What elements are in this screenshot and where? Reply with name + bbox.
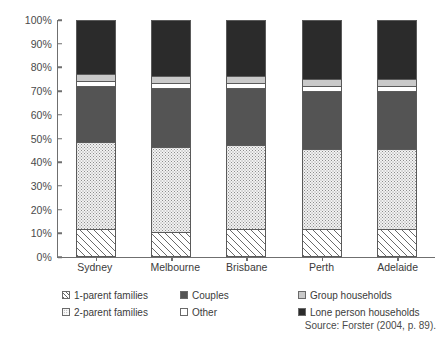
legend-item[interactable]: 2-parent families xyxy=(62,305,180,319)
bar-segment[interactable] xyxy=(77,21,115,75)
bar-segment[interactable] xyxy=(77,143,115,230)
bar-segment[interactable] xyxy=(303,80,341,87)
legend-item-label: Other xyxy=(192,307,217,318)
bar-group xyxy=(377,20,417,257)
stacked-bar[interactable] xyxy=(377,20,417,257)
x-axis-label-adelaide: Adelaide xyxy=(377,261,417,273)
legend-swatch-icon xyxy=(180,291,188,299)
stacked-bar[interactable] xyxy=(151,20,191,257)
legend-item-label: Couples xyxy=(192,290,229,301)
bar-segment[interactable] xyxy=(152,89,190,148)
bar-segment[interactable] xyxy=(378,92,416,151)
legend-item-label: Lone person households xyxy=(310,307,420,318)
plot-area: 0%10%20%30%40%50%60%70%80%90%100% xyxy=(57,20,435,258)
y-axis-tick: 40% xyxy=(31,156,58,168)
bar-group xyxy=(76,20,116,257)
bar-segment[interactable] xyxy=(152,77,190,84)
bar-segment[interactable] xyxy=(378,80,416,87)
bar-segment[interactable] xyxy=(378,21,416,80)
bar-segment[interactable] xyxy=(378,230,416,256)
bar-segment[interactable] xyxy=(303,230,341,256)
bar-segment[interactable] xyxy=(227,77,265,84)
x-axis-labels: SydneyMelbourneBrisbanePerthAdelaide xyxy=(57,261,435,277)
y-axis-tick: 80% xyxy=(31,61,58,73)
bar-segment[interactable] xyxy=(152,21,190,77)
legend-item[interactable]: Lone person households xyxy=(298,305,420,319)
bar-segment[interactable] xyxy=(227,89,265,145)
y-axis-tick: 50% xyxy=(31,133,58,145)
legend-swatch-icon xyxy=(298,308,306,316)
legend-item[interactable]: Couples xyxy=(180,288,298,302)
bar-segment[interactable] xyxy=(227,21,265,77)
legend-swatch-icon xyxy=(180,308,188,316)
x-axis-label-brisbane: Brisbane xyxy=(226,261,266,273)
bar-segment[interactable] xyxy=(227,146,265,231)
bar-segment[interactable] xyxy=(378,150,416,230)
bar-segment[interactable] xyxy=(303,21,341,80)
legend-item-label: 2-parent families xyxy=(74,307,148,318)
y-axis-tick: 0% xyxy=(37,251,58,263)
legend-swatch-icon xyxy=(62,291,70,299)
bar-series-container xyxy=(58,20,435,257)
bar-group xyxy=(151,20,191,257)
legend-item[interactable]: 1-parent families xyxy=(62,288,180,302)
y-axis-tick: 20% xyxy=(31,204,58,216)
y-axis-tick: 70% xyxy=(31,85,58,97)
x-axis-label-sydney: Sydney xyxy=(75,261,115,273)
legend-item[interactable]: Group households xyxy=(298,288,420,302)
legend-item-label: Group households xyxy=(310,290,392,301)
bar-segment[interactable] xyxy=(152,233,190,257)
bar-segment[interactable] xyxy=(77,230,115,256)
y-axis-tick: 30% xyxy=(31,180,58,192)
bar-segment[interactable] xyxy=(77,87,115,143)
stacked-bar[interactable] xyxy=(302,20,342,257)
bar-segment[interactable] xyxy=(303,150,341,230)
bar-segment[interactable] xyxy=(152,148,190,233)
stacked-bar[interactable] xyxy=(76,20,116,257)
legend-item[interactable]: Other xyxy=(180,305,298,319)
figure-stacked-bar-chart: 0%10%20%30%40%50%60%70%80%90%100% Sydney… xyxy=(0,0,448,340)
bar-group xyxy=(226,20,266,257)
y-axis-tick: 60% xyxy=(31,109,58,121)
stacked-bar[interactable] xyxy=(226,20,266,257)
chart-legend: 1-parent familiesCouplesGroup households… xyxy=(62,288,412,319)
legend-swatch-icon xyxy=(62,308,70,316)
bar-group xyxy=(302,20,342,257)
x-axis-label-perth: Perth xyxy=(302,261,342,273)
y-axis-tick: 100% xyxy=(25,14,58,26)
bar-segment[interactable] xyxy=(227,230,265,256)
legend-item-label: 1-parent families xyxy=(74,290,148,301)
y-axis-tick: 10% xyxy=(31,227,58,239)
bar-segment[interactable] xyxy=(303,92,341,151)
x-axis-label-melbourne: Melbourne xyxy=(150,261,190,273)
legend-swatch-icon xyxy=(298,291,306,299)
y-axis-tick: 90% xyxy=(31,38,58,50)
bar-segment[interactable] xyxy=(77,75,115,82)
source-citation: Source: Forster (2004, p. 89). xyxy=(305,320,436,331)
